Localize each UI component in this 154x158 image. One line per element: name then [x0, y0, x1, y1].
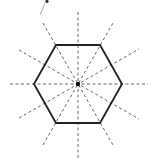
- center-point: [76, 82, 80, 86]
- hexagon-symmetry-diagram: [0, 0, 154, 158]
- cropped-text-fragment: [40, 0, 49, 15]
